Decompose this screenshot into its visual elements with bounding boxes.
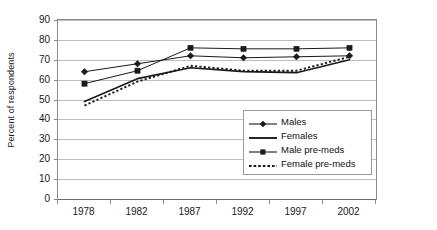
y-axis-tick-label: 40: [18, 113, 54, 124]
y-axis-title-text: Percent of respondents: [6, 52, 16, 147]
chart-legend: MalesFemalesMale pre-medsFemale pre-meds: [243, 110, 372, 175]
data-point-marker: [240, 54, 247, 61]
legend-item-males: Males: [248, 115, 368, 129]
legend-key-diamond-solid-icon: [248, 116, 278, 128]
x-axis-tick-mark: [322, 200, 323, 204]
legend-item-male-pre-meds: Male pre-meds: [248, 143, 368, 157]
y-axis-tick-label: 30: [18, 133, 54, 144]
y-axis-tick-label: 0: [18, 193, 54, 204]
data-point-marker: [135, 68, 140, 73]
y-axis-tick-label: 80: [18, 33, 54, 44]
data-point-marker: [347, 45, 352, 50]
data-point-marker: [81, 68, 88, 75]
data-point-marker: [188, 45, 193, 50]
x-axis-tick-label: 1997: [284, 206, 306, 217]
x-axis-tick-mark: [110, 200, 111, 204]
x-axis-tick-label: 2002: [337, 206, 359, 217]
data-point-marker: [134, 60, 141, 67]
x-axis-tick-mark: [375, 200, 376, 204]
x-axis-tick-mark: [269, 200, 270, 204]
legend-item-female-pre-meds: Female pre-meds: [248, 157, 368, 171]
legend-item-females: Females: [248, 129, 368, 143]
legend-label: Males: [281, 117, 306, 127]
x-axis-tick-labels: 197819821987199219972002: [57, 200, 377, 226]
legend-key-none-solid-icon: [248, 130, 278, 142]
legend-label: Female pre-meds: [281, 159, 355, 169]
data-point-marker: [241, 46, 246, 51]
y-axis-tick-label: 60: [18, 73, 54, 84]
chart-figure: Percent of respondents 01020304050607080…: [0, 0, 437, 230]
y-axis-tick-label: 90: [18, 14, 54, 25]
legend-key-square-solid-icon: [248, 144, 278, 156]
x-axis-tick-mark: [216, 200, 217, 204]
y-axis-tick-label: 10: [18, 173, 54, 184]
y-axis-tick-label: 20: [18, 153, 54, 164]
x-axis-tick-mark: [57, 200, 58, 204]
x-axis-tick-label: 1987: [178, 206, 200, 217]
legend-label: Females: [281, 131, 317, 141]
y-axis-tick-labels: 0102030405060708090: [18, 0, 54, 230]
y-axis-tick-label: 70: [18, 53, 54, 64]
x-axis-tick-label: 1982: [125, 206, 147, 217]
y-axis-tick-label: 50: [18, 93, 54, 104]
legend-label: Male pre-meds: [281, 145, 344, 155]
data-point-marker: [187, 53, 194, 60]
series-line-female-pre-meds: [85, 57, 350, 106]
x-axis-tick-label: 1992: [231, 206, 253, 217]
data-point-marker: [293, 53, 300, 60]
legend-key-none-dotted-icon: [248, 158, 278, 170]
data-point-marker: [294, 46, 299, 51]
data-point-marker: [82, 81, 87, 86]
x-axis-tick-label: 1978: [72, 206, 94, 217]
x-axis-tick-mark: [163, 200, 164, 204]
